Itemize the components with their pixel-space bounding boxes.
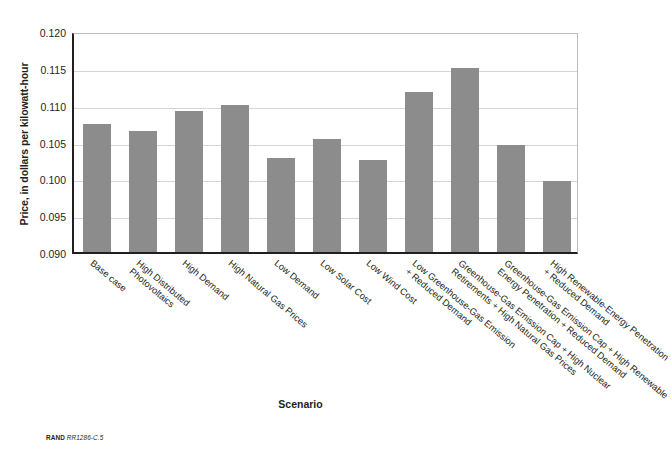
caption-source: RAND	[46, 434, 65, 441]
x-tick-label: Low Demand	[272, 258, 321, 302]
source-caption: RAND RR1286-C.5	[46, 434, 103, 441]
x-axis-title: Scenario	[0, 398, 601, 410]
x-tick-label: High Natural Gas Prices	[226, 258, 309, 331]
caption-code: RR1286-C.5	[67, 434, 104, 441]
x-tick-label: Base case	[88, 258, 128, 294]
